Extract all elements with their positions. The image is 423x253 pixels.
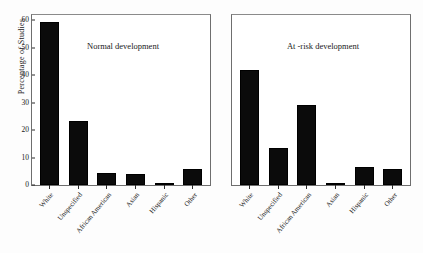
bar-right-hispanic bbox=[355, 167, 374, 185]
x-axis-labels-left: WhiteUnspecifiedAfrican AmericanAsianHis… bbox=[32, 185, 210, 245]
plot-area-left: WhiteUnspecifiedAfrican AmericanAsianHis… bbox=[32, 15, 210, 185]
x-axis-label-right-white: White bbox=[238, 191, 255, 209]
y-tick-label-60: 60 bbox=[22, 17, 30, 25]
bar-right-african-american bbox=[297, 105, 316, 185]
bar-slot bbox=[292, 15, 321, 185]
y-tick-label-30: 30 bbox=[22, 99, 30, 107]
bar-left-white bbox=[40, 22, 59, 185]
x-label-slot: Asian bbox=[121, 185, 150, 245]
bar-left-african-american bbox=[97, 173, 116, 185]
y-tick-mark-20 bbox=[32, 130, 35, 131]
x-axis-label-left-asian: Asian bbox=[125, 191, 142, 209]
bar-right-other bbox=[383, 169, 402, 185]
y-tick-label-50: 50 bbox=[22, 44, 30, 52]
bar-slot bbox=[150, 15, 179, 185]
y-tick-label-40: 40 bbox=[22, 72, 30, 80]
x-label-slot: African American bbox=[292, 185, 321, 245]
panel-at-risk-development: At -risk development WhiteUnspecifiedAfr… bbox=[231, 14, 411, 186]
bar-right-unspecified bbox=[269, 148, 288, 185]
y-tick-mark-30 bbox=[32, 102, 35, 103]
bar-right-white bbox=[240, 70, 259, 185]
bar-left-unspecified bbox=[69, 121, 88, 185]
x-axis-label-right-other: Other bbox=[382, 191, 398, 208]
bar-slot bbox=[350, 15, 379, 185]
bar-slot bbox=[235, 15, 264, 185]
x-label-slot: Other bbox=[178, 185, 207, 245]
bar-slot bbox=[35, 15, 64, 185]
y-tick-mark-0 bbox=[32, 185, 35, 186]
y-tick-label-10: 10 bbox=[22, 154, 30, 162]
x-axis-label-left-hispanic: Hispanic bbox=[148, 191, 170, 215]
bar-slot bbox=[121, 15, 150, 185]
x-label-slot: Other bbox=[378, 185, 407, 245]
bar-slot bbox=[92, 15, 121, 185]
x-axis-label-right-asian: Asian bbox=[325, 191, 342, 209]
y-tick-mark-40 bbox=[32, 75, 35, 76]
bar-group-left bbox=[32, 15, 210, 185]
plot-area-right: WhiteUnspecifiedAfrican AmericanAsianHis… bbox=[232, 15, 410, 185]
x-label-slot: African American bbox=[92, 185, 121, 245]
x-label-slot: Hispanic bbox=[150, 185, 179, 245]
bar-left-asian bbox=[126, 174, 145, 185]
bar-slot bbox=[178, 15, 207, 185]
bar-slot bbox=[264, 15, 293, 185]
bar-slot bbox=[64, 15, 93, 185]
x-label-slot: Hispanic bbox=[350, 185, 379, 245]
y-tick-mark-50 bbox=[32, 47, 35, 48]
chart-figure: Percentage of Studies Normal development… bbox=[0, 0, 423, 253]
x-label-slot: Asian bbox=[321, 185, 350, 245]
x-axis-label-left-white: White bbox=[38, 191, 55, 209]
x-axis-label-left-other: Other bbox=[182, 191, 198, 208]
panel-normal-development: Normal development WhiteUnspecifiedAfric… bbox=[31, 14, 211, 186]
bar-group-right bbox=[232, 15, 410, 185]
bar-slot bbox=[378, 15, 407, 185]
y-tick-mark-60 bbox=[32, 20, 35, 21]
y-tick-label-20: 20 bbox=[22, 126, 30, 134]
x-axis-label-right-hispanic: Hispanic bbox=[348, 191, 370, 215]
bar-left-other bbox=[183, 169, 202, 185]
x-axis-labels-right: WhiteUnspecifiedAfrican AmericanAsianHis… bbox=[232, 185, 410, 245]
y-tick-mark-10 bbox=[32, 157, 35, 158]
y-tick-label-0: 0 bbox=[25, 181, 29, 189]
bar-slot bbox=[321, 15, 350, 185]
